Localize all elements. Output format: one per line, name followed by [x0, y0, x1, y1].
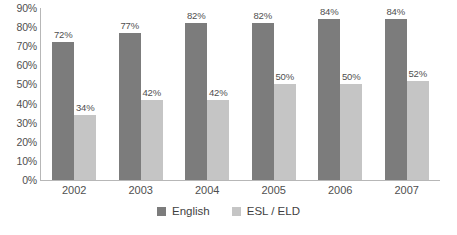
- y-axis-tick-label: 60%: [0, 60, 37, 71]
- bar-value-label: 82%: [179, 11, 213, 21]
- bar-value-label: 84%: [379, 7, 413, 17]
- x-axis-tick-label: 2005: [241, 184, 308, 197]
- bar-group: 84%50%: [307, 8, 374, 180]
- y-axis-tick-label: 80%: [0, 22, 37, 33]
- y-axis-tick-label: 10%: [0, 156, 37, 167]
- bar-value-label: 82%: [246, 11, 280, 21]
- plot-wrapper: 90%80%70%60%50%40%30%20%10%0% 72%34%77%4…: [0, 0, 457, 200]
- bar-english[interactable]: [185, 23, 207, 180]
- bar-esl-eld[interactable]: [407, 81, 429, 180]
- bar-value-label: 34%: [68, 103, 102, 113]
- bar-group: 77%42%: [108, 8, 175, 180]
- legend-item[interactable]: English: [157, 205, 210, 218]
- bar-chart: 90%80%70%60%50%40%30%20%10%0% 72%34%77%4…: [0, 0, 457, 235]
- bar-value-label: 77%: [113, 21, 147, 31]
- x-axis-tick-label: 2007: [374, 184, 441, 197]
- bar-english[interactable]: [318, 19, 340, 180]
- y-axis-tick-label: 70%: [0, 41, 37, 52]
- y-axis-tick-label: 40%: [0, 99, 37, 110]
- chart-legend: EnglishESL / ELD: [0, 205, 457, 218]
- y-axis-tick-label: 0%: [0, 175, 37, 186]
- bar-esl-eld[interactable]: [74, 115, 96, 180]
- bar-english[interactable]: [119, 33, 141, 180]
- y-axis: 90%80%70%60%50%40%30%20%10%0%: [0, 0, 37, 180]
- plot-area: 72%34%77%42%82%42%82%50%84%50%84%52%: [41, 8, 440, 180]
- x-axis-tick-label: 2003: [108, 184, 175, 197]
- legend-swatch-icon: [157, 207, 166, 216]
- legend-item-label: ESL / ELD: [247, 205, 300, 218]
- x-axis-line: [40, 180, 440, 181]
- bar-value-label: 52%: [401, 69, 435, 79]
- bar-group: 82%50%: [241, 8, 308, 180]
- legend-item-label: English: [172, 205, 210, 218]
- bar-group: 84%52%: [374, 8, 441, 180]
- bar-english[interactable]: [252, 23, 274, 180]
- y-axis-tick-label: 90%: [0, 3, 37, 14]
- legend-item[interactable]: ESL / ELD: [232, 205, 300, 218]
- bar-value-label: 84%: [312, 7, 346, 17]
- bar-value-label: 72%: [46, 30, 80, 40]
- bar-value-label: 42%: [201, 88, 235, 98]
- x-axis-tick-label: 2004: [174, 184, 241, 197]
- x-axis-tick-label: 2006: [307, 184, 374, 197]
- bar-value-label: 42%: [135, 88, 169, 98]
- y-axis-tick-label: 30%: [0, 118, 37, 129]
- bar-esl-eld[interactable]: [141, 100, 163, 180]
- bar-english[interactable]: [385, 19, 407, 180]
- bar-group: 82%42%: [174, 8, 241, 180]
- x-axis-tick-label: 2002: [41, 184, 108, 197]
- y-axis-tick-label: 20%: [0, 137, 37, 148]
- bar-group: 72%34%: [41, 8, 108, 180]
- bar-value-label: 50%: [268, 72, 302, 82]
- legend-swatch-icon: [232, 207, 241, 216]
- y-axis-tick-label: 50%: [0, 79, 37, 90]
- bar-value-label: 50%: [334, 72, 368, 82]
- bar-esl-eld[interactable]: [274, 84, 296, 180]
- bar-esl-eld[interactable]: [340, 84, 362, 180]
- bar-esl-eld[interactable]: [207, 100, 229, 180]
